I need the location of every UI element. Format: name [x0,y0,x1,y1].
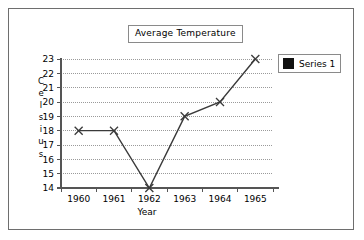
y-axis-tick-label: 23 [43,54,54,64]
y-axis-tick-label: 14 [43,183,55,193]
x-axis-tick-label: 1964 [209,194,232,204]
x-axis-tick-label: 1963 [173,194,196,204]
data-point-marker [251,55,259,63]
y-axis-tick-label: 18 [43,126,55,136]
x-axis-tick-label: 1965 [244,194,267,204]
chart-frame: Average Temperature Series 1 C e l s i u… [8,8,354,230]
y-axis-tick-label: 19 [43,112,55,122]
y-axis-tick-label: 21 [43,83,54,93]
plot-area: 2322212019181716151419601961196219631964… [9,9,355,231]
x-axis-tick-label: 1960 [67,194,90,204]
y-axis-tick-label: 16 [43,155,55,165]
y-axis-tick-label: 22 [43,69,54,79]
y-axis-tick-label: 17 [43,140,54,150]
x-axis-tick-label: 1961 [103,194,126,204]
plot-svg: 2322212019181716151419601961196219631964… [9,9,355,231]
y-axis-tick-label: 20 [43,97,55,107]
y-axis-tick-label: 15 [43,169,54,179]
series-line [79,59,256,188]
x-axis-tick-label: 1962 [138,194,161,204]
